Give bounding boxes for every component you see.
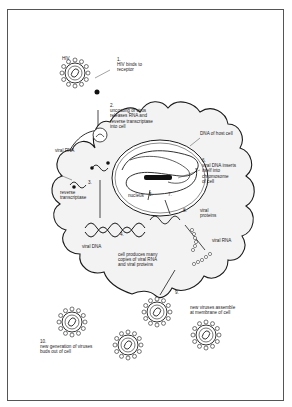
label-step-5: 5. [149, 192, 153, 197]
label-step-10: 10. new generation of viruses buds out o… [40, 339, 92, 355]
label-viral-rna-left: viral RNA [55, 148, 74, 153]
virion-assembling [142, 297, 172, 327]
label-step-3: 3. [88, 180, 92, 185]
label-step-2: 2. uncoating of virus releases RNA and r… [110, 103, 153, 129]
virion-budding-1 [57, 307, 87, 337]
label-step-4: 4. [120, 232, 124, 237]
label-dna-host-cell: DNA of host cell [200, 131, 233, 136]
label-step-7: 7. [168, 192, 172, 197]
label-nucleus: nucleus [128, 193, 144, 198]
label-viral-dna: viral DNA [82, 244, 101, 249]
virion-budding-3 [191, 320, 221, 350]
label-new-viruses-assemble: new viruses assemble at membrane of cell [190, 305, 235, 315]
label-step-8: 8. [183, 208, 187, 213]
label-viral-rna-right: viral RNA [212, 238, 231, 243]
label-reverse-transcriptase: reverse transcriptase [60, 190, 86, 200]
virion-budding-2 [113, 330, 143, 360]
hiv-virion-binding [60, 58, 90, 88]
label-hiv: HIV [62, 56, 70, 61]
label-step-6: 6. viral DNA inserts itself into chromos… [202, 158, 236, 184]
label-step-1: 1. HIV binds to receptor [117, 57, 142, 73]
label-cell-produces: cell produces many copies of viral RNA a… [118, 252, 158, 268]
integrated-viral-dna [144, 175, 172, 180]
label-viral-proteins: viral proteins [200, 208, 216, 218]
label-step-9: 9. [175, 290, 179, 295]
